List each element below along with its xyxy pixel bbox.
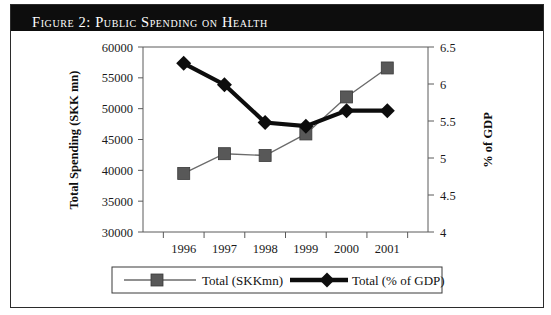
legend-square-marker: [151, 274, 163, 286]
series-total-skkmn: [178, 62, 394, 179]
left-axis-title: Total Spending (SKK mn): [67, 71, 81, 210]
right-tick-label: 5: [440, 152, 446, 166]
right-tick-label: 6: [440, 78, 446, 92]
x-tick-label: 1998: [253, 242, 278, 256]
series-polyline: [184, 63, 388, 126]
series-polyline: [184, 68, 388, 173]
legend-label-total-pct-gdp: Total (% of GDP): [352, 273, 445, 288]
left-tick-label: 35000: [102, 195, 133, 209]
x-tick-label: 1997: [212, 242, 237, 256]
figure-title-bar: Figure 2: Public Spending on Health: [11, 5, 543, 31]
left-axis-ticks: 30000350004000045000500005500060000: [102, 41, 143, 240]
data-point-diamond[interactable]: [176, 56, 191, 71]
right-tick-label: 5.5: [440, 115, 456, 129]
page-title: Figure 2: Public Spending on Health: [32, 14, 268, 31]
chart-legend: Total (SKKmn) Total (% of GDP): [112, 267, 445, 293]
legend-label-total-skkmn: Total (SKKmn): [202, 273, 283, 288]
left-tick-label: 40000: [102, 164, 133, 178]
data-point-diamond[interactable]: [380, 103, 395, 118]
right-tick-label: 6.5: [440, 41, 456, 55]
data-point-diamond[interactable]: [339, 103, 354, 118]
left-tick-label: 60000: [102, 41, 133, 55]
data-point-square[interactable]: [178, 167, 190, 179]
x-tick-label: 2001: [375, 242, 400, 256]
figure-container: Figure 2: Public Spending on Health 3000…: [0, 0, 551, 315]
chart-svg: 30000350004000045000500005500060000 44.5…: [0, 31, 551, 309]
chart-area: 30000350004000045000500005500060000 44.5…: [0, 31, 551, 309]
x-tick-label: 2000: [334, 242, 359, 256]
x-axis-ticks: 199619971998199920002001: [163, 232, 407, 256]
right-tick-label: 4.5: [440, 189, 456, 203]
data-point-square[interactable]: [218, 148, 230, 160]
left-tick-label: 30000: [102, 226, 133, 240]
x-tick-label: 1996: [171, 242, 196, 256]
data-point-square[interactable]: [381, 62, 393, 74]
left-tick-label: 55000: [102, 71, 133, 85]
data-point-square[interactable]: [341, 91, 353, 103]
x-tick-label: 1999: [293, 242, 318, 256]
data-point-square[interactable]: [259, 150, 271, 162]
right-tick-label: 4: [440, 226, 447, 240]
left-tick-label: 50000: [102, 102, 133, 116]
left-tick-label: 45000: [102, 133, 133, 147]
series-total-pct-gdp: [176, 56, 395, 134]
right-axis-title: % of GDP: [481, 112, 495, 168]
plot-frame: [143, 47, 428, 232]
right-axis-ticks: 44.555.566.5: [428, 41, 456, 240]
